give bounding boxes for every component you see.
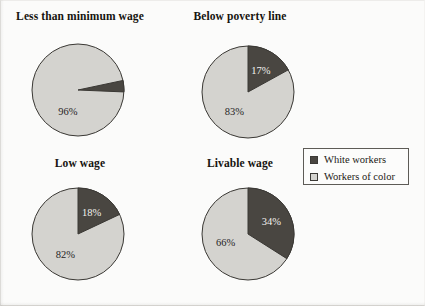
pie-value-label-white-workers-3: 34%	[262, 216, 282, 227]
pie-svg-1: 17%83%	[192, 36, 307, 148]
pie-chart-figure: Less than minimum wage 4%96% Below pover…	[0, 0, 425, 306]
pie-value-label-workers-of-color-0: 96%	[58, 106, 78, 117]
pie-svg-2: 18%82%	[22, 178, 137, 290]
pie-panel-below-poverty-line: Below poverty line 17%83%	[180, 0, 360, 150]
legend-swatch-dark-icon	[310, 156, 318, 164]
pie-title-3: Livable wage	[180, 157, 300, 170]
pie-value-label-workers-of-color-1: 83%	[225, 106, 245, 117]
pie-value-label-white-workers-2: 18%	[82, 207, 102, 218]
legend-item-workers-of-color: Workers of color	[310, 168, 408, 185]
pie-value-label-white-workers-1: 17%	[251, 65, 271, 76]
pie-title-1: Below poverty line	[180, 10, 300, 23]
legend-item-white-workers: White workers	[310, 151, 408, 168]
pie-value-label-workers-of-color-2: 82%	[56, 249, 76, 260]
pie-svg-3: 34%66%	[192, 178, 307, 290]
legend-label-workers-of-color: Workers of color	[324, 171, 395, 182]
pie-value-label-workers-of-color-3: 66%	[216, 237, 236, 248]
legend-label-white-workers: White workers	[324, 154, 386, 165]
legend-swatch-light-icon	[310, 173, 318, 181]
chart-legend: White workers Workers of color	[303, 148, 409, 185]
pie-title-2: Low wage	[0, 157, 160, 170]
pie-panel-low-wage: Low wage 18%82%	[0, 152, 180, 306]
pie-panel-less-than-minimum-wage: Less than minimum wage 4%96%	[0, 0, 180, 150]
pie-svg-0: 4%96%	[22, 34, 137, 146]
pie-title-0: Less than minimum wage	[0, 10, 160, 23]
